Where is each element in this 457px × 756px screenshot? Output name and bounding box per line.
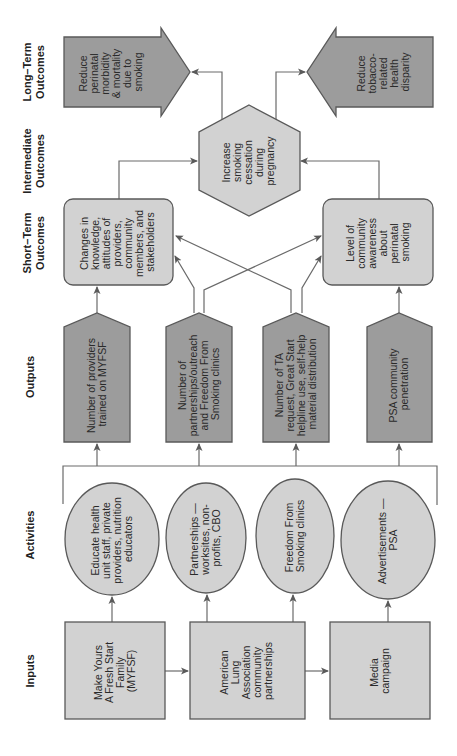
column-label-short-term: Short–TermOutcomes [21,212,46,273]
svg-text:Inputs: Inputs [24,655,36,688]
long-term-outcome-1: Reduce perinatal morbidity & mortality d… [64,28,190,116]
activity-1: Educate health unit staff, private provi… [65,483,159,595]
input-2: American Lung Association community part… [190,622,305,719]
column-label-intermediate: IntermediateOutcomes [21,128,46,193]
svg-text:Partnerships — worksites: Partnerships — worksites, non- profits, … [188,500,222,575]
logic-model-diagram: Long–TermOutcomes IntermediateOutcomes S… [0,0,457,756]
long-term-outcome-2: Reduce tobacco- related health disparity [307,28,433,116]
svg-text:Number of providers trai: Number of providers trained on MYFSF [85,335,108,433]
svg-text:Short–TermOutcomes: Short–TermOutcomes [21,212,46,273]
column-label-inputs: Inputs [24,655,36,688]
output-1: Number of providers trained on MYFSF [64,313,130,442]
activity-3: Freedom From Smoking clinics [256,479,334,593]
output-4: PSA community penetration [367,313,432,442]
svg-text:Freedom From Smoking cli: Freedom From Smoking clinics [283,500,306,572]
activity-2: Partnerships — worksites, non- profits, … [166,483,246,593]
svg-text:Activities: Activities [24,511,36,560]
svg-text:Reduce tobacco- re: Reduce tobacco- related health disparity [355,50,411,93]
svg-text:Long–TermOutcomes: Long–TermOutcomes [21,42,46,101]
svg-text:Increase smoking c: Increase smoking cessation during pregna… [220,136,276,186]
svg-text:IntermediateOutcomes: IntermediateOutcomes [21,128,46,193]
svg-text:American Lung Asso: American Lung Association community part… [218,642,274,700]
column-label-outputs: Outputs [24,356,36,398]
column-label-activities: Activities [24,511,36,560]
activity-4: Advertisements — PSA [341,481,435,599]
output-3: Number of TA request, Great Start helpli… [263,313,329,442]
intermediate-outcome-hexagon: Increase smoking cessation during pregna… [199,105,300,216]
input-1: Make Yours A Fresh Start Family (MYFSF) [65,622,165,719]
input-3: Media campaign [330,622,430,719]
short-term-outcome-1: Changes in knowledge, attitudes of provi… [64,199,173,285]
svg-text:Level of community: Level of community awareness about perin… [344,215,411,269]
short-term-outcome-2: Level of community awareness about perin… [323,199,433,285]
svg-text:Reduce perinatal m: Reduce perinatal morbidity & mortality d… [77,46,144,99]
svg-text:Outputs: Outputs [24,356,36,398]
column-label-long-term: Long–TermOutcomes [21,42,46,101]
output-2: Number of partnerships/outreach and Free… [166,313,232,442]
